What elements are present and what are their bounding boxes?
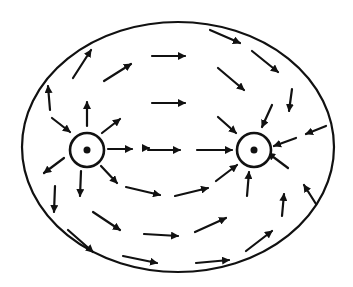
field-arrow-icon <box>175 188 208 196</box>
field-arrow-icon <box>282 194 284 216</box>
field-arrow-icon <box>304 185 316 204</box>
field-arrow-icon <box>80 171 81 196</box>
field-arrow-icon <box>68 230 93 252</box>
field-arrow-icon <box>73 50 91 78</box>
field-arrow-icon <box>123 256 157 263</box>
field-arrow-icon <box>52 118 70 132</box>
center-dot-icon <box>84 147 91 154</box>
oval-boundary <box>22 22 334 272</box>
field-arrow-icon <box>262 105 272 127</box>
field-arrow-icon <box>252 51 278 72</box>
field-arrow-icon <box>195 218 226 232</box>
charge-left <box>70 133 104 167</box>
field-arrow-icon <box>218 117 236 133</box>
field-arrow-icon <box>274 138 296 146</box>
field-arrow-icon <box>104 64 131 81</box>
field-arrow-icon <box>54 186 55 212</box>
charge-right <box>237 133 271 167</box>
field-arrow-icon <box>144 234 178 236</box>
field-arrow-icon <box>218 68 244 90</box>
field-arrow-icon <box>101 166 117 183</box>
field-arrow-icon <box>306 126 326 134</box>
field-arrow-icon <box>216 165 237 181</box>
field-arrow-icon <box>48 86 50 110</box>
field-diagram <box>0 0 353 287</box>
field-arrow-icon <box>289 89 292 111</box>
field-arrow-icon <box>196 260 229 263</box>
field-arrow-icon <box>126 187 160 195</box>
field-arrow-icon <box>102 119 120 133</box>
field-arrow-icon <box>247 172 249 196</box>
center-dot-icon <box>251 147 258 154</box>
field-arrow-icon <box>44 158 64 173</box>
field-arrow-icon <box>93 212 120 230</box>
